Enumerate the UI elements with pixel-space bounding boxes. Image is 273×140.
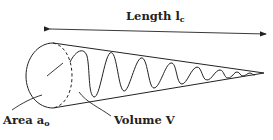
- length-arrow: [50, 29, 266, 34]
- cone-top-edge: [53, 43, 264, 73]
- length-label-subscript: c: [180, 14, 185, 24]
- area-label: Area ao: [3, 113, 50, 128]
- area-label-text: Area a: [3, 113, 44, 127]
- length-label: Length lc: [126, 9, 185, 24]
- cross-section-dashed: [53, 43, 72, 108]
- cone-bottom-edge: [53, 73, 264, 108]
- length-label-text: Length l: [126, 9, 180, 23]
- radius-line: [47, 63, 63, 76]
- area-label-subscript: o: [44, 118, 49, 128]
- base-ellipse: [26, 43, 53, 108]
- volume-label-text: Volume V: [114, 113, 175, 127]
- volume-pointer: [79, 92, 111, 116]
- volume-label: Volume V: [114, 113, 175, 127]
